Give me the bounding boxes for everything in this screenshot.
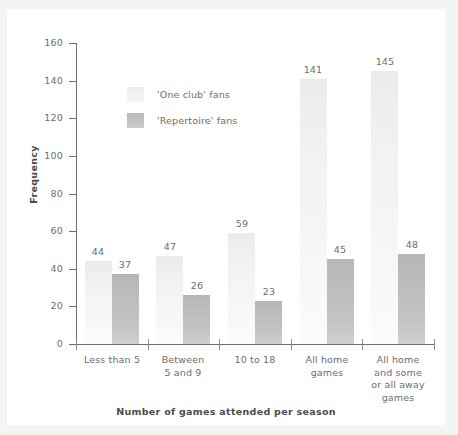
bar-value-dark-group-1: 37 — [105, 259, 145, 270]
bar-value-light-group-4: 141 — [293, 64, 333, 75]
category-label-4: All homegames — [289, 354, 365, 379]
bar-value-dark-group-2: 26 — [177, 280, 217, 291]
category-label-5: All homeand someor all awaygames — [360, 354, 436, 404]
bar-value-light-group-3: 59 — [222, 218, 262, 229]
legend-swatch-icon-one-club — [127, 87, 144, 102]
category-label-line: Less than 5 — [84, 354, 140, 365]
bar-value-dark-group-4: 45 — [320, 244, 360, 255]
bar-dark-group-3 — [255, 301, 282, 344]
category-label-line: games — [382, 392, 415, 403]
bar-value-light-group-5: 145 — [365, 56, 405, 67]
page-edge-bottom — [0, 425, 458, 435]
category-label-line: 10 to 18 — [235, 354, 276, 365]
category-label-line: Between — [162, 354, 205, 365]
page-edge-left — [0, 0, 7, 435]
category-label-3: 10 to 18 — [217, 354, 293, 367]
legend-item-one-club: 'One club' fans — [127, 81, 237, 107]
y-axis-title: Frequency — [28, 135, 39, 215]
bar-value-dark-group-3: 23 — [249, 286, 289, 297]
chart-legend: 'One club' fans 'Repertoire' fans — [127, 81, 237, 133]
bar-light-group-1 — [85, 261, 112, 344]
category-label-line: All home — [377, 354, 420, 365]
bar-dark-group-4 — [327, 259, 354, 344]
page-edge-top — [0, 0, 458, 9]
legend-label-repertoire: 'Repertoire' fans — [157, 115, 237, 126]
bar-dark-group-5 — [398, 254, 425, 344]
bar-light-group-4 — [300, 79, 327, 344]
bar-dark-group-2 — [183, 295, 210, 344]
category-label-2: Between5 and 9 — [145, 354, 221, 379]
bar-light-group-2 — [156, 256, 183, 344]
category-label-line: and some — [374, 367, 422, 378]
bar-value-dark-group-5: 48 — [392, 239, 432, 250]
bar-value-light-group-2: 47 — [150, 241, 190, 252]
page-edge-right — [445, 0, 458, 435]
legend-label-one-club: 'One club' fans — [157, 89, 230, 100]
bar-value-light-group-1: 44 — [78, 246, 118, 257]
category-label-1: Less than 5 — [74, 354, 150, 367]
bar-light-group-5 — [371, 71, 398, 344]
bar-dark-group-1 — [112, 274, 139, 344]
category-label-line: 5 and 9 — [164, 367, 201, 378]
category-label-line: games — [311, 367, 344, 378]
x-axis-line — [76, 344, 434, 345]
legend-item-repertoire: 'Repertoire' fans — [127, 107, 237, 133]
chart-page: 020406080100120140160 443747265923141451… — [0, 0, 458, 435]
plot-area: 020406080100120140160 443747265923141451… — [7, 9, 445, 425]
legend-swatch-icon-repertoire — [127, 113, 144, 128]
category-label-line: All home — [306, 354, 349, 365]
x-axis-title: Number of games attended per season — [7, 406, 445, 417]
category-label-line: or all away — [371, 379, 425, 390]
